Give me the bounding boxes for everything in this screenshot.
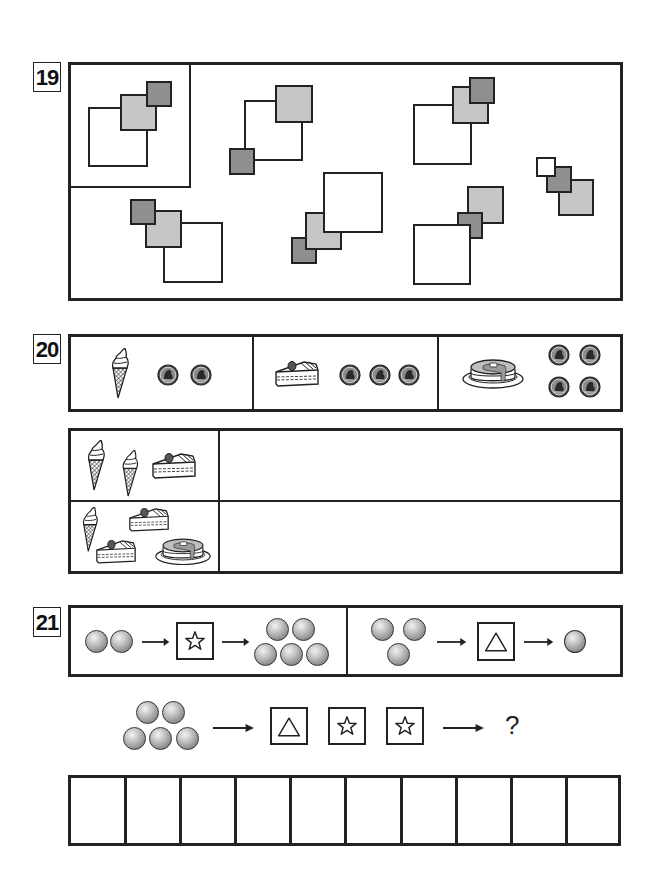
triangle-icon [277,716,301,738]
arrow-right-icon [437,637,467,647]
answer-field-1[interactable] [222,432,618,498]
triangle-icon [484,631,508,653]
problem-20-number: 20 [33,334,61,364]
arrow-right-icon [213,723,255,733]
star-icon [394,715,416,737]
pancake-icon [154,533,212,567]
coin-icon [548,344,570,366]
problem-21-number: 21 [33,607,61,637]
answer-cell-5[interactable] [290,776,346,845]
coin-icon [339,364,361,386]
coin-icon [157,364,179,386]
divider [68,500,623,502]
ball-icon [123,727,146,750]
square-medium-light [275,85,313,123]
arrow-right-icon [142,637,170,647]
answer-cell-8[interactable] [456,776,512,845]
ice-cream-icon [120,450,140,498]
answer-cell-9[interactable] [511,776,567,845]
ball-icon [176,727,199,750]
ball-icon [162,701,185,724]
cake-icon [128,505,170,533]
result-question-mark: ? [505,710,519,741]
square-small-dark [229,148,255,175]
ball-icon [254,643,277,666]
ice-cream-icon [86,440,106,492]
arrow-right-icon [443,723,485,733]
cake-icon [151,450,197,480]
ball-icon [387,643,410,666]
ball-icon [280,643,303,666]
star-operator-box [176,622,214,660]
square-small-dark [130,199,156,225]
answer-cell-10[interactable] [566,776,620,845]
pancake-icon [461,355,525,389]
answer-cell-4[interactable] [235,776,291,845]
ball-icon [266,618,289,641]
coin-icon [190,364,212,386]
divider [437,334,439,412]
answer-cell-6[interactable] [345,776,402,845]
answer-cell-1[interactable] [69,776,126,845]
star-icon [184,630,206,652]
star-operator-box [328,707,366,745]
coin-icon [579,344,601,366]
problem-19-number: 19 [33,62,61,92]
answer-cell-7[interactable] [401,776,457,845]
cake-icon [95,537,137,565]
coin-icon [548,376,570,398]
star-operator-box [386,707,424,745]
ball-icon [149,727,172,750]
arrow-right-icon [524,637,554,647]
answer-cell-2[interactable] [125,776,181,845]
ball-icon [403,618,426,641]
arrow-right-icon [222,637,250,647]
ball-icon [85,630,108,653]
ball-icon [306,643,329,666]
ball-icon [371,618,394,641]
star-icon [336,715,358,737]
ice-cream-icon [110,348,130,400]
triangle-operator-box [477,622,515,661]
square-tiny-white [536,157,556,177]
coin-icon [398,364,420,386]
coin-icon [369,364,391,386]
divider [252,334,254,412]
divider [346,605,348,677]
answer-cell-3[interactable] [180,776,236,845]
triangle-operator-box [270,707,308,745]
cake-icon [274,358,320,388]
coin-icon [579,376,601,398]
square-small-dark [146,81,172,107]
square-large-white [413,224,471,285]
ball-icon [292,618,315,641]
square-large-white [323,172,383,233]
ball-icon [110,630,133,653]
ball-icon [564,630,586,653]
ball-icon [136,701,159,724]
answer-field-2[interactable] [222,504,618,570]
square-small-dark [469,77,495,104]
